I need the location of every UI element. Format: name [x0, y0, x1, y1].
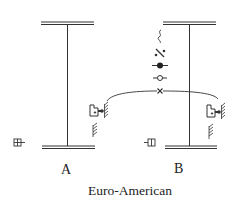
top-double-line-a [41, 22, 94, 25]
box-pin-icon-b [207, 105, 221, 117]
top-double-line-b [163, 22, 216, 25]
panel-label-a: A [61, 163, 71, 177]
connector-arc [107, 91, 218, 101]
boxed-cross-icon-a [14, 139, 25, 146]
diagram-caption: Euro-American [0, 184, 240, 198]
euro-american-diagram [0, 0, 240, 208]
cross-mark-icon [158, 89, 163, 94]
hatch-stop-icon-a-lower [93, 123, 97, 137]
bottom-double-line-a [42, 146, 95, 149]
open-circle-icon [153, 76, 167, 81]
panel-b [107, 22, 225, 149]
hatch-stop-icon-b-upper [222, 103, 226, 119]
wave-icon [158, 30, 161, 43]
panel-label-b: B [174, 162, 183, 176]
filled-dot-icon [152, 63, 168, 69]
slashed-dots-icon [155, 49, 166, 57]
hatch-stop-icon-a-upper [105, 102, 109, 118]
hatch-stop-icon-b-lower [209, 124, 213, 139]
bottom-double-line-b [165, 146, 217, 149]
boxed-icon-b [144, 139, 155, 146]
box-pin-icon-a [90, 105, 104, 116]
panel-a [14, 22, 108, 149]
